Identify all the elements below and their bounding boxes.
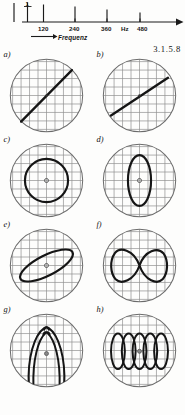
scope-panel-d-label: d) <box>97 135 104 144</box>
scope-panel-e: e) <box>0 218 93 306</box>
tick-label-240: 240 <box>69 25 80 32</box>
center-dot-b <box>138 94 140 96</box>
scope-panel-f: f) <box>92 218 185 306</box>
scope-screen-a <box>8 57 85 134</box>
amplitude-marker-label: 1 <box>26 1 29 7</box>
unit-label-hz: Hz <box>121 25 129 32</box>
tick-label-360: 360 <box>101 25 112 32</box>
scope-screen-b <box>101 57 178 134</box>
scope-screen-e <box>8 227 85 304</box>
scope-panel-g: g) <box>0 303 93 391</box>
figure-page: 1 120 240 360 Hz 480 Frequenz 3.1.5.8 a) <box>0 0 185 415</box>
scope-panel-b-label: b) <box>97 50 104 59</box>
scope-panel-b: b) <box>92 48 185 136</box>
tick-label-120: 120 <box>38 25 49 32</box>
scope-screen-g <box>8 312 85 389</box>
graticule-d <box>101 142 178 219</box>
graticule-e <box>8 227 85 304</box>
scope-panel-c: c) <box>0 133 93 221</box>
trace-g-left <box>29 327 49 386</box>
center-dot-a <box>45 94 47 96</box>
tick-label-480: 480 <box>137 25 148 32</box>
center-dot-h <box>137 349 141 353</box>
frequency-spectrum: 1 120 240 360 Hz 480 Frequenz <box>0 0 185 46</box>
graticule-c <box>8 142 85 219</box>
scope-screen-f <box>101 227 178 304</box>
trace-g-right <box>44 327 64 386</box>
frequency-axis-label: Frequenz <box>58 34 87 41</box>
scope-panel-h-label: h) <box>97 305 104 314</box>
scope-panel-a: a) <box>0 48 93 136</box>
scope-panel-d: d) <box>92 133 185 221</box>
scope-panel-g-label: g) <box>4 305 11 314</box>
scope-panel-c-label: c) <box>4 135 11 144</box>
scope-screen-d <box>101 142 178 219</box>
direction-arrow-head <box>53 34 58 39</box>
center-dot-g <box>44 352 48 356</box>
scope-panel-grid: a) <box>0 48 185 415</box>
scope-panel-f-label: f) <box>97 220 102 229</box>
axis-arrowhead <box>176 19 184 26</box>
graticule-g <box>8 312 85 389</box>
scope-panel-e-label: e) <box>4 220 11 229</box>
scope-panel-a-label: a) <box>4 50 11 59</box>
scope-panel-h: h) <box>92 303 185 391</box>
scope-screen-c <box>8 142 85 219</box>
scope-screen-h <box>101 312 178 389</box>
